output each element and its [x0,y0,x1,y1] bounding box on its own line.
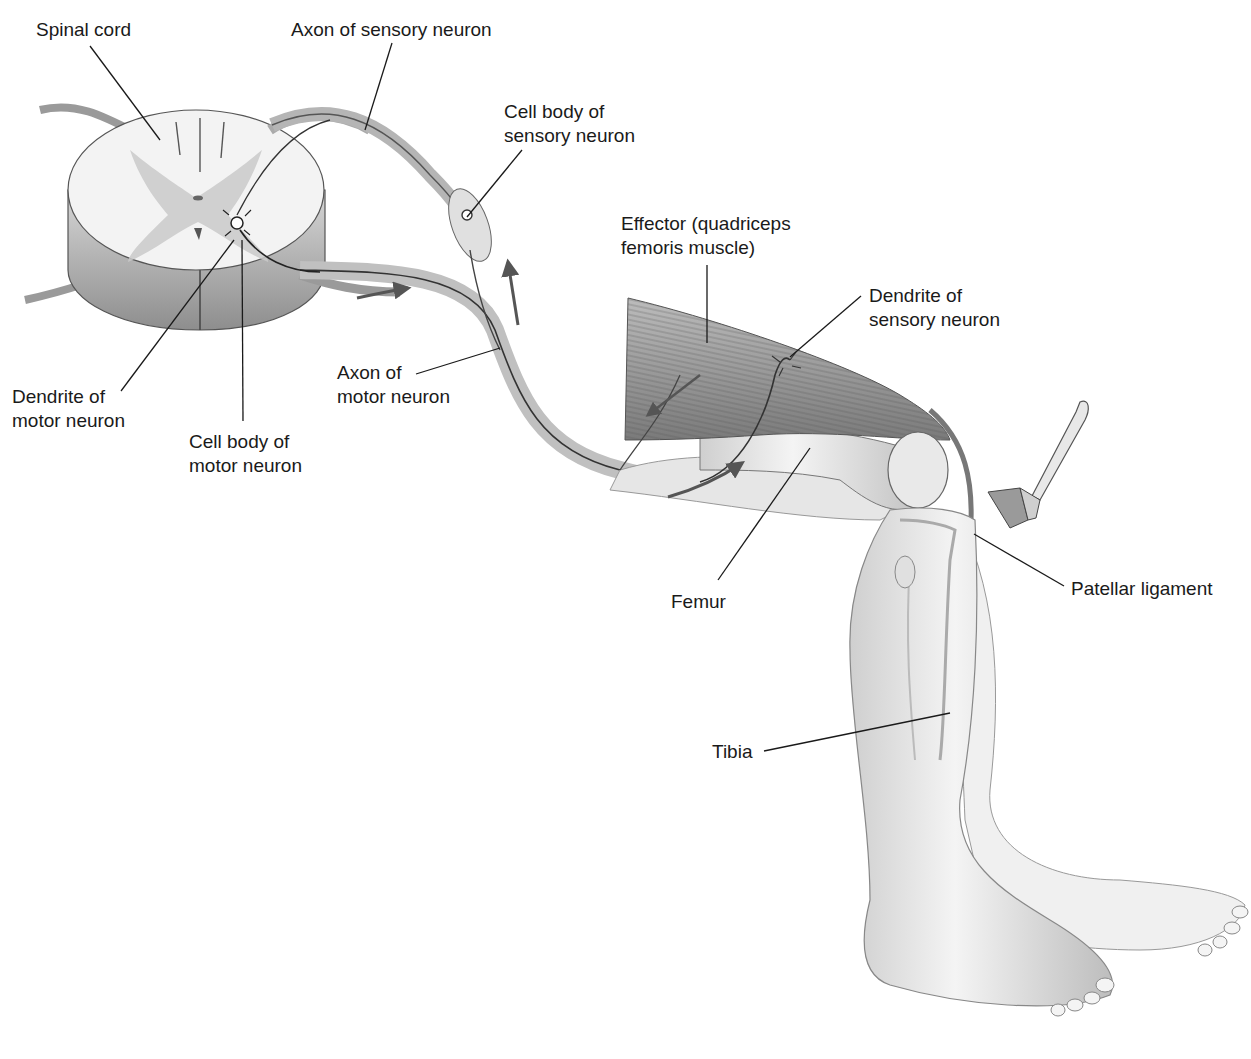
leader-line-patellar-ligament [974,534,1064,586]
label-femur: Femur [671,590,726,614]
label-cell-body-motor: Cell body of motor neuron [189,430,302,478]
label-spinal-cord: Spinal cord [36,18,131,42]
leg [610,298,1248,1016]
label-tibia: Tibia [712,740,752,764]
illustration [0,0,1251,1059]
reflex-arc-diagram: Spinal cordAxon of sensory neuronCell bo… [0,0,1251,1059]
label-dendrite-motor: Dendrite of motor neuron [12,385,125,433]
leader-line-axon-sensory [365,43,392,130]
label-axon-sensory: Axon of sensory neuron [291,18,492,42]
reflex-hammer-icon [988,401,1088,528]
spinal-cord-section [25,107,400,330]
arrow-icon [508,262,518,325]
leader-line-cell-body-sensory [467,150,522,217]
label-patellar-ligament: Patellar ligament [1071,577,1213,601]
label-axon-motor: Axon of motor neuron [337,361,450,409]
sensory-cell-body [462,210,472,220]
label-cell-body-sensory: Cell body of sensory neuron [504,100,635,148]
label-effector: Effector (quadriceps femoris muscle) [621,212,791,260]
label-dendrite-sensory: Dendrite of sensory neuron [869,284,1000,332]
leader-line-dendrite-sensory [790,296,861,357]
